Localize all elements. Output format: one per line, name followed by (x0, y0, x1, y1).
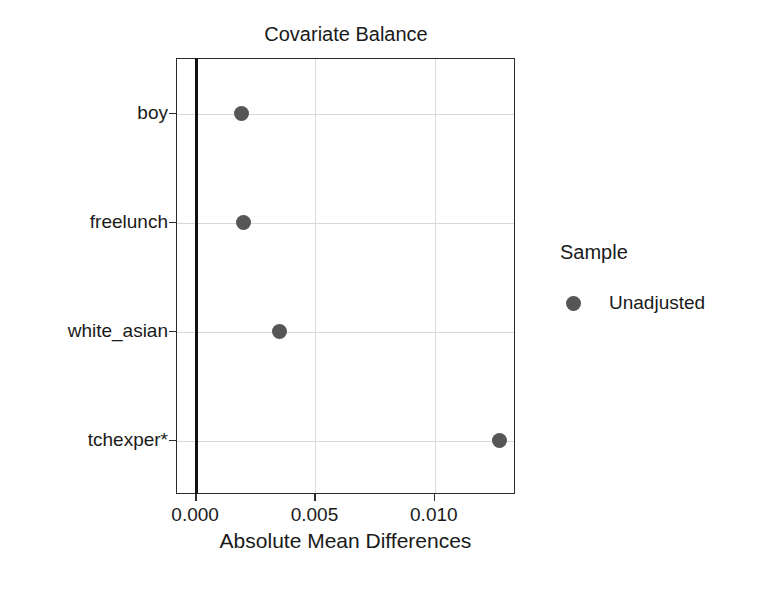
chart-title: Covariate Balance (176, 22, 516, 46)
y-tick-mark (169, 113, 176, 115)
y-axis-tick-labels: boyfreelunchwhite_asiantchexper* (0, 58, 168, 494)
covariate-balance-figure: Covariate Balance 0.0000.0050.010 boyfre… (0, 0, 769, 589)
gridline-horizontal (177, 114, 514, 115)
y-tick-mark (169, 440, 176, 442)
plot-panel (176, 58, 515, 494)
x-tick-label: 0.010 (379, 504, 489, 526)
x-tick-label: 0.005 (259, 504, 369, 526)
gridline-horizontal (177, 332, 514, 333)
zero-reference-line (195, 58, 198, 494)
gridline-vertical (435, 59, 436, 493)
data-point[interactable] (492, 433, 507, 448)
y-tick-label-tchexper: tchexper* (88, 429, 168, 451)
legend-key (556, 296, 590, 311)
legend-entries: Unadjusted (556, 292, 756, 314)
y-tick-label-boy: boy (137, 102, 168, 124)
legend-dot-icon (566, 296, 581, 311)
y-tick-mark (169, 222, 176, 224)
x-tick-mark (195, 494, 197, 501)
x-tick-mark (434, 494, 436, 501)
legend: Sample Unadjusted (556, 240, 756, 314)
data-point[interactable] (272, 324, 287, 339)
x-tick-label: 0.000 (140, 504, 250, 526)
gridline-horizontal (177, 223, 514, 224)
x-tick-mark (314, 494, 316, 501)
y-tick-label-freelunch: freelunch (90, 211, 168, 233)
gridline-vertical (315, 59, 316, 493)
data-point[interactable] (234, 106, 249, 121)
y-tick-label-white_asian: white_asian (68, 320, 168, 342)
x-axis-title: Absolute Mean Differences (176, 528, 515, 553)
gridline-horizontal (177, 441, 514, 442)
legend-entry[interactable]: Unadjusted (556, 292, 756, 314)
data-point[interactable] (236, 215, 251, 230)
y-tick-mark (169, 331, 176, 333)
legend-title: Sample (560, 240, 756, 264)
legend-entry-label: Unadjusted (609, 292, 705, 314)
